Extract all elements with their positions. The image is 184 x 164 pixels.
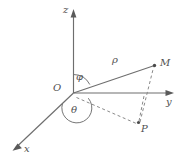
point-m-label: M [160, 58, 170, 68]
origin-label: O [53, 83, 61, 93]
point-m-dot [153, 64, 156, 67]
y-axis-label: y [166, 97, 172, 107]
x-axis-line [18, 93, 74, 146]
vertical-segment-pm [140, 68, 154, 123]
radius-label: ρ [112, 55, 118, 65]
spherical-coordinates-figure: z y x O M P ρ φ θ [0, 0, 184, 164]
z-axis-arrowhead [71, 9, 77, 18]
phi-angle-label: φ [76, 72, 83, 82]
point-p-dot [137, 121, 140, 124]
z-axis-label: z [63, 5, 68, 15]
x-axis-label: x [24, 144, 30, 154]
point-p-label: P [141, 124, 148, 134]
theta-angle-label: θ [71, 105, 77, 115]
x-axis-arrowhead [13, 144, 22, 151]
segment-p-to-y-axis [139, 94, 145, 122]
figure-canvas [0, 0, 184, 164]
